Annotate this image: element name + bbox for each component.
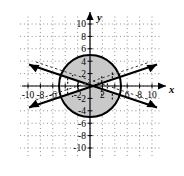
grid-dot — [40, 117, 41, 118]
grid-dot — [55, 24, 56, 25]
grid-dot — [66, 24, 67, 25]
grid-dot — [124, 135, 125, 136]
grid-dot — [40, 105, 41, 106]
grid-dot — [139, 28, 140, 29]
grid-dot — [120, 36, 121, 37]
grid-dot — [114, 151, 115, 152]
grid-dot — [28, 47, 29, 48]
grid-dot — [55, 48, 56, 49]
grid-dot — [139, 117, 140, 118]
grid-dot — [55, 61, 56, 62]
grid-dot — [114, 28, 115, 29]
grid-dot — [135, 73, 136, 74]
grid-dot — [158, 48, 159, 49]
grid-dot — [139, 48, 140, 49]
grid-dot — [139, 78, 140, 79]
grid-dot — [28, 40, 29, 41]
grid-dot — [65, 124, 66, 125]
grid-dot — [28, 78, 29, 79]
grid-dot — [28, 109, 29, 110]
grid-dot — [132, 36, 133, 37]
grid-dot — [152, 40, 153, 41]
grid-dot — [43, 148, 44, 149]
y-tick-label: 4 — [81, 57, 86, 67]
grid-dot — [55, 135, 56, 136]
grid-dot — [158, 61, 159, 62]
grid-dot — [102, 51, 103, 52]
grid-dot — [127, 113, 128, 114]
grid-dot — [77, 55, 78, 56]
grid-dot — [62, 135, 63, 136]
x-axis-label: x — [168, 84, 174, 95]
grid-dot — [52, 63, 53, 64]
grid-dot — [65, 147, 66, 148]
grid-dot — [39, 61, 40, 62]
grid-dot — [108, 36, 109, 37]
grid-dot — [112, 110, 113, 111]
grid-dot — [47, 110, 48, 111]
grid-dot — [132, 24, 133, 25]
grid-dot — [152, 120, 153, 121]
grid-dot — [152, 59, 153, 60]
grid-dot — [139, 51, 140, 52]
grid-dot — [40, 55, 41, 56]
grid-dot — [65, 20, 66, 21]
grid-dot — [74, 48, 75, 49]
grid-dot — [139, 120, 140, 121]
grid-dot — [114, 51, 115, 52]
grid-dot — [116, 36, 117, 37]
grid-dot — [93, 148, 94, 149]
grid-dot — [152, 43, 153, 44]
grid-dot — [102, 117, 103, 118]
grid-dot — [105, 48, 106, 49]
graph-canvas: -10-8-6-226810108642-2-4-6-8-10 x y — [0, 0, 184, 176]
grid-dot — [152, 151, 153, 152]
grid-dot — [116, 48, 117, 49]
grid-dot — [127, 132, 128, 133]
grid-dot — [43, 110, 44, 111]
grid-dot — [139, 24, 140, 25]
grid-dot — [52, 155, 53, 156]
grid-dot — [143, 36, 144, 37]
grid-dot — [102, 140, 103, 141]
grid-dot — [24, 73, 25, 74]
grid-dot — [65, 28, 66, 29]
grid-dot — [116, 148, 117, 149]
grid-dot — [158, 98, 159, 99]
grid-dot — [52, 120, 53, 121]
grid-dot — [24, 123, 25, 124]
grid-dot — [78, 36, 79, 37]
grid-dot — [28, 128, 29, 129]
grid-dot — [114, 36, 115, 37]
grid-dot — [32, 110, 33, 111]
x-tick-label: -8 — [36, 90, 44, 100]
grid-dot — [40, 51, 41, 52]
grid-dot — [152, 78, 153, 79]
grid-dot — [28, 55, 29, 56]
grid-dot — [152, 17, 153, 18]
grid-dot — [114, 124, 115, 125]
grid-dot — [59, 48, 60, 49]
grid-dot — [47, 48, 48, 49]
grid-dot — [151, 110, 152, 111]
grid-dot — [24, 48, 25, 49]
y-axis-arrow — [86, 12, 93, 20]
grid-dot — [127, 128, 128, 129]
grid-dot — [158, 73, 159, 74]
grid-dot — [35, 123, 36, 124]
grid-dot — [102, 36, 103, 37]
grid-dot — [74, 135, 75, 136]
x-tick-label: -10 — [22, 90, 35, 100]
grid-dot — [135, 148, 136, 149]
grid-dot — [139, 143, 140, 144]
grid-dot — [32, 61, 33, 62]
grid-dot — [65, 55, 66, 56]
grid-dot — [108, 48, 109, 49]
grid-dot — [101, 36, 102, 37]
y-tick-label: -4 — [78, 106, 86, 116]
grid-dot — [62, 61, 63, 62]
grid-dot — [52, 59, 53, 60]
grid-dot — [40, 124, 41, 125]
grid-dot — [20, 148, 21, 149]
grid-dot — [35, 135, 36, 136]
